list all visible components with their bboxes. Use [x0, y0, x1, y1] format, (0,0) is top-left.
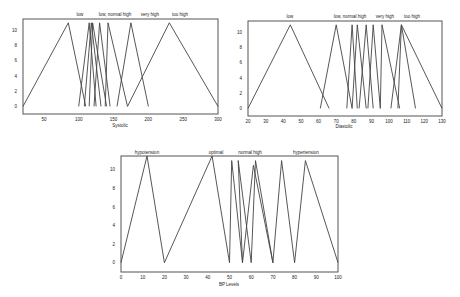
- x-tick-label: 60: [249, 275, 255, 280]
- y-tick-label: 6: [239, 60, 242, 65]
- x-tick-label: 120: [421, 119, 429, 124]
- x-tick-label: 90: [369, 119, 375, 124]
- fuzzy-set-label: optimal: [209, 150, 224, 155]
- fuzzy-set-label: hypertension: [293, 150, 319, 155]
- x-tick-label: 50: [41, 117, 47, 122]
- y-tick-label: 4: [239, 76, 242, 81]
- fuzzy-labels: lowlow, normal highvery hightoo high: [77, 12, 189, 17]
- bp-levels-chart: 0246810 0102030405060708090100 BP Levels…: [100, 140, 360, 297]
- x-tick-label: 250: [179, 117, 187, 122]
- fuzzy-set-label: low: [287, 14, 295, 19]
- y-ticks: 0246810: [12, 28, 18, 109]
- series-line: [398, 25, 442, 109]
- series-line: [391, 25, 416, 109]
- y-ticks: 0246810: [237, 30, 243, 111]
- series-line: [243, 165, 273, 262]
- series-line: [347, 25, 358, 109]
- y-tick-label: 4: [112, 223, 115, 228]
- x-tick-label: 70: [270, 275, 276, 280]
- series-line: [128, 23, 219, 107]
- fuzzy-set-label: too high: [172, 12, 189, 17]
- y-tick-label: 2: [239, 91, 242, 96]
- y-tick-label: 0: [239, 106, 242, 111]
- x-tick-label: 50: [298, 119, 304, 124]
- x-tick-label: 130: [438, 119, 446, 124]
- y-tick-label: 10: [237, 30, 243, 35]
- x-axis-label: BP Levels: [219, 282, 240, 287]
- series-line: [164, 156, 229, 263]
- y-tick-label: 8: [239, 45, 242, 50]
- y-tick-label: 6: [14, 58, 17, 63]
- x-tick-label: 40: [205, 275, 211, 280]
- fuzzy-labels: hypotensionoptimalnormal highhypertensio…: [135, 150, 320, 155]
- series-line: [238, 161, 251, 263]
- fuzzy-labels: lowlow, normal highvery hightoo high: [287, 14, 421, 19]
- x-tick-label: 30: [263, 119, 269, 124]
- fuzzy-set-label: low: [77, 12, 85, 17]
- fuzzy-set-label: normal high: [238, 150, 262, 155]
- triangle-lines: [248, 25, 442, 109]
- series-line: [359, 25, 373, 109]
- series-line: [352, 25, 366, 109]
- x-tick-label: 60: [316, 119, 322, 124]
- y-tick-label: 6: [112, 205, 115, 210]
- x-tick-label: 110: [403, 119, 411, 124]
- x-tick-label: 200: [145, 117, 153, 122]
- series-line: [117, 23, 148, 107]
- series-line: [121, 156, 164, 263]
- x-axis-label: Systolic: [112, 123, 128, 128]
- x-axis-label: Diastolic: [335, 124, 353, 129]
- y-tick-label: 4: [14, 74, 17, 79]
- triangle-lines: [23, 23, 218, 107]
- series-line: [273, 161, 295, 263]
- y-tick-label: 2: [14, 89, 17, 94]
- x-tick-label: 150: [110, 117, 118, 122]
- fuzzy-set-label: low, normal high: [99, 12, 132, 17]
- triangle-lines: [121, 156, 338, 263]
- series-line: [295, 161, 338, 263]
- x-tick-label: 10: [140, 275, 146, 280]
- x-ticks: 50100150200250300: [41, 117, 222, 122]
- x-tick-label: 300: [214, 117, 222, 122]
- y-tick-label: 2: [112, 242, 115, 247]
- x-tick-label: 100: [334, 275, 342, 280]
- y-tick-label: 10: [12, 28, 18, 33]
- x-tick-label: 30: [184, 275, 190, 280]
- plot-frame: [248, 21, 442, 116]
- series-line: [23, 23, 86, 107]
- x-tick-label: 0: [120, 275, 123, 280]
- fuzzy-set-label: very high: [376, 14, 395, 19]
- x-tick-label: 20: [245, 119, 251, 124]
- series-line: [248, 25, 329, 109]
- y-tick-label: 8: [112, 186, 115, 191]
- x-tick-label: 40: [281, 119, 287, 124]
- x-tick-label: 100: [385, 119, 393, 124]
- y-tick-label: 10: [110, 167, 116, 172]
- x-ticks: 0102030405060708090100: [120, 275, 343, 280]
- x-tick-label: 50: [227, 275, 233, 280]
- series-line: [89, 23, 106, 107]
- diastolic-chart: 0246810 2030405060708090100110120130 Dia…: [230, 0, 460, 140]
- fuzzy-set-label: hypotension: [135, 150, 160, 155]
- series-line: [380, 25, 399, 109]
- x-tick-label: 100: [75, 117, 83, 122]
- fuzzy-set-label: very high: [141, 12, 160, 17]
- fuzzy-set-label: too high: [404, 14, 421, 19]
- y-tick-label: 8: [14, 43, 17, 48]
- x-tick-label: 80: [292, 275, 298, 280]
- y-ticks: 0246810: [110, 167, 116, 265]
- x-tick-label: 20: [162, 275, 168, 280]
- systolic-chart: 0246810 50100150200250300 Systolic lowlo…: [0, 0, 230, 140]
- plot-frame: [23, 19, 218, 114]
- y-tick-label: 0: [14, 104, 17, 109]
- y-tick-label: 0: [112, 260, 115, 265]
- fuzzy-set-label: low, normal high: [334, 14, 367, 19]
- x-tick-label: 90: [314, 275, 320, 280]
